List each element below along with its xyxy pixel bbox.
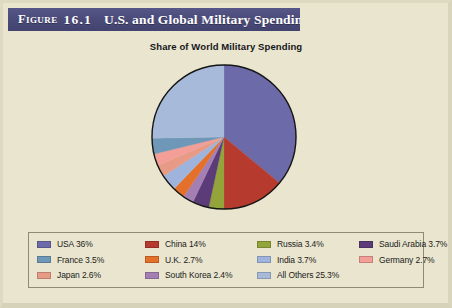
legend-item: Saudi Arabia 3.7% (359, 237, 433, 252)
legend-item: China 14% (145, 237, 257, 252)
legend-item: South Korea 2.4% (145, 268, 257, 283)
legend-item: Russia 3.4% (257, 237, 359, 252)
legend-item: France 3.5% (37, 252, 145, 267)
legend-item-label: South Korea 2.4% (165, 271, 232, 280)
legend-item: U.K. 2.7% (145, 252, 257, 267)
legend-grid: USA 36%China 14%Russia 3.4%Saudi Arabia … (29, 233, 423, 287)
legend-item-label: China 14% (165, 240, 206, 249)
legend-item (359, 268, 433, 283)
legend-item-label: All Others 25.3% (277, 271, 339, 280)
legend-color-swatch (359, 241, 373, 248)
legend-item-label: India 3.7% (277, 256, 316, 265)
pie-slice (152, 65, 224, 138)
legend-color-swatch (37, 256, 51, 263)
legend-item-label: Germany 2.7% (379, 256, 435, 265)
figure-number: 16.1 (64, 12, 92, 28)
pie-chart (151, 64, 297, 210)
figure-title-bar: Figure 16.1 U.S. and Global Military Spe… (8, 8, 300, 31)
figure-label: Figure (18, 12, 58, 27)
legend-color-swatch (145, 256, 159, 263)
legend-color-swatch (145, 241, 159, 248)
legend-color-swatch (257, 256, 271, 263)
legend-item-label: France 3.5% (57, 256, 104, 265)
legend-item: All Others 25.3% (257, 268, 359, 283)
legend-item-label: Saudi Arabia 3.7% (379, 240, 447, 249)
legend-color-swatch (257, 241, 271, 248)
legend-item: USA 36% (37, 237, 145, 252)
pie-slice-group (152, 65, 296, 209)
legend-color-swatch (145, 272, 159, 279)
legend-item: Germany 2.7% (359, 252, 433, 267)
legend-item-label: Japan 2.6% (57, 271, 101, 280)
legend-item: Japan 2.6% (37, 268, 145, 283)
legend-item-label: U.K. 2.7% (165, 256, 202, 265)
legend-color-swatch (359, 256, 373, 263)
legend-color-swatch (257, 272, 271, 279)
legend-item: India 3.7% (257, 252, 359, 267)
pie-chart-svg (151, 64, 297, 210)
legend: USA 36%China 14%Russia 3.4%Saudi Arabia … (28, 232, 424, 288)
legend-item-label: USA 36% (57, 240, 93, 249)
chart-title: Share of World Military Spending (0, 41, 452, 52)
legend-color-swatch (37, 272, 51, 279)
figure-title: U.S. and Global Military Spending (104, 12, 300, 28)
legend-color-swatch (37, 241, 51, 248)
legend-item-label: Russia 3.4% (277, 240, 324, 249)
figure-container: Figure 16.1 U.S. and Global Military Spe… (0, 0, 452, 308)
